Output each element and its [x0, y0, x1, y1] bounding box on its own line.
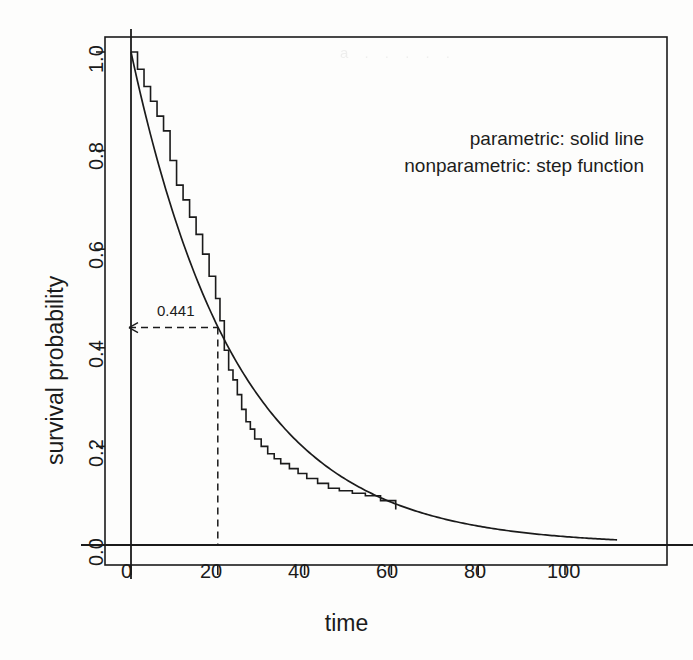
nonparametric-step-curve — [131, 52, 396, 510]
xtick-label: 60 — [376, 560, 398, 583]
annotation-crosshair — [129, 323, 218, 545]
figure-canvas: a . . . . . 0 20 40 60 80 100 0.0 0.2 0.… — [0, 0, 693, 660]
xtick-label: 80 — [464, 560, 486, 583]
x-axis-title: time — [0, 610, 693, 637]
legend-nonparametric: nonparametric: step function — [300, 155, 644, 177]
legend-parametric: parametric: solid line — [300, 128, 644, 150]
xtick-label: 20 — [200, 560, 222, 583]
xtick-label: 100 — [547, 560, 580, 583]
annotation-value-label: 0.441 — [157, 302, 195, 319]
xtick-label: 0 — [121, 560, 132, 583]
xtick-label: 40 — [288, 560, 310, 583]
plot-frame — [105, 37, 667, 565]
parametric-curve — [131, 52, 617, 540]
